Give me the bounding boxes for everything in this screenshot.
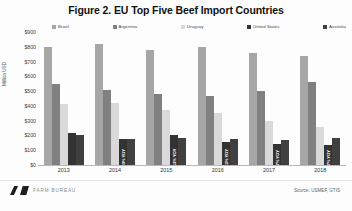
legend-label: Argentina [119, 24, 138, 29]
bar-argentina-2016[interactable] [206, 96, 214, 165]
bar-group-2017: -7% YOY [243, 32, 294, 165]
y-tick-label: $300 [2, 118, 36, 124]
bar-australia-2016[interactable] [230, 139, 238, 165]
y-tick-label: $900 [2, 29, 36, 35]
bar-brazil-2016[interactable] [198, 47, 206, 165]
x-tick-label-2013: 2013 [38, 167, 89, 173]
logo-mark-secondary-icon [20, 186, 29, 195]
bar-australia-2014[interactable] [127, 139, 135, 165]
farm-bureau-logo: FARM BUREAU [10, 186, 76, 195]
footer-divider [0, 180, 352, 181]
bar-uruguay-2015[interactable] [162, 110, 170, 165]
x-tick-label-2014: 2014 [89, 167, 140, 173]
chart-title: Figure 2. EU Top Five Beef Import Countr… [0, 4, 352, 16]
chart-canvas: Figure 2. EU Top Five Beef Import Countr… [0, 0, 352, 211]
y-tick-label: $700 [2, 59, 36, 65]
legend-label: Australia [329, 24, 346, 29]
bar-united-states-2017[interactable]: -7% YOY [273, 144, 281, 165]
bar-group-2018: -7% YOY [295, 32, 346, 165]
y-tick-label: $500 [2, 88, 36, 94]
legend-swatch-icon [323, 25, 327, 29]
bar-australia-2015[interactable] [178, 138, 186, 165]
y-axis-ticks: $900$800$700$600$500$400$300$200$100$0 [0, 32, 36, 165]
bar-australia-2018[interactable] [332, 138, 340, 165]
bar-uruguay-2014[interactable] [111, 103, 119, 165]
legend-label: Uruguay [187, 24, 204, 29]
legend-swatch-icon [181, 25, 185, 29]
bar-argentina-2018[interactable] [308, 82, 316, 165]
bar-australia-2017[interactable] [281, 140, 289, 165]
x-tick-label-2017: 2017 [243, 167, 294, 173]
x-axis-labels: 201320142015201620172018 [38, 167, 346, 173]
legend-swatch-icon [247, 25, 251, 29]
legend-label: Brazil [58, 24, 69, 29]
bar-united-states-2016[interactable]: -23% YOY [222, 142, 230, 165]
bar-brazil-2014[interactable] [95, 44, 103, 165]
y-tick-label: $0 [2, 162, 36, 168]
y-tick-label: $800 [2, 44, 36, 50]
bar-group-2014: -20% YOY [89, 32, 140, 165]
bar-group-2015: +13% YOY [141, 32, 192, 165]
bar-group-2016: -23% YOY [192, 32, 243, 165]
bar-argentina-2015[interactable] [154, 94, 162, 165]
legend-swatch-icon [52, 25, 56, 29]
bar-argentina-2014[interactable] [103, 90, 111, 165]
bar-uruguay-2017[interactable] [265, 121, 273, 165]
bar-brazil-2013[interactable] [44, 47, 52, 165]
y-tick-label: $400 [2, 103, 36, 109]
y-tick-label: $100 [2, 147, 36, 153]
x-axis-line [38, 165, 346, 166]
source-note: Source: USMEF, GTIS [294, 188, 340, 193]
bar-argentina-2013[interactable] [52, 84, 60, 165]
x-tick-label-2018: 2018 [295, 167, 346, 173]
bar-australia-2013[interactable] [76, 135, 84, 165]
bar-brazil-2018[interactable] [300, 56, 308, 165]
x-tick-label-2016: 2016 [192, 167, 243, 173]
bar-uruguay-2016[interactable] [214, 113, 222, 165]
logo-text: FARM BUREAU [33, 188, 76, 193]
chart-legend: BrazilArgentinaUruguayUnited StatesAustr… [52, 24, 346, 29]
legend-item-argentina[interactable]: Argentina [113, 24, 138, 29]
bar-uruguay-2013[interactable] [60, 104, 68, 165]
bar-united-states-2018[interactable]: -7% YOY [324, 145, 332, 165]
legend-item-australia[interactable]: Australia [323, 24, 346, 29]
bar-uruguay-2018[interactable] [316, 127, 324, 165]
legend-item-uruguay[interactable]: Uruguay [181, 24, 204, 29]
legend-label: United States [253, 24, 279, 29]
bar-argentina-2017[interactable] [257, 91, 265, 165]
legend-item-united-states[interactable]: United States [247, 24, 279, 29]
bar-united-states-2013[interactable] [68, 133, 76, 166]
y-tick-label: $600 [2, 73, 36, 79]
legend-item-brazil[interactable]: Brazil [52, 24, 69, 29]
bar-group-2013 [38, 32, 89, 165]
y-tick-label: $200 [2, 132, 36, 138]
bar-groups: -20% YOY+13% YOY-23% YOY-7% YOY-7% YOY [38, 32, 346, 165]
bar-united-states-2015[interactable]: +13% YOY [170, 135, 178, 165]
bar-brazil-2017[interactable] [249, 53, 257, 165]
bar-brazil-2015[interactable] [146, 50, 154, 165]
x-tick-label-2015: 2015 [141, 167, 192, 173]
bar-united-states-2014[interactable]: -20% YOY [119, 139, 127, 165]
legend-swatch-icon [113, 25, 117, 29]
